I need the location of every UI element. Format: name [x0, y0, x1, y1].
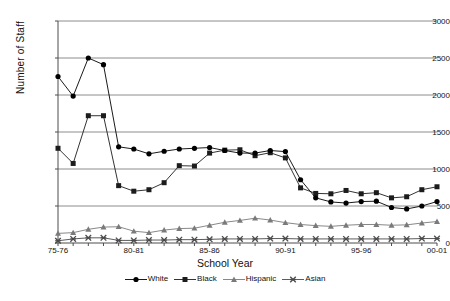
chart-legend: WhiteBlackHispanicAsian: [0, 274, 450, 284]
x-tick-label: 75-76: [48, 246, 68, 255]
y-axis-label: Number of Staff: [15, 0, 26, 133]
legend-marker-circle-icon: [125, 275, 147, 284]
x-tick-label: 80-81: [124, 246, 144, 255]
legend-item-hispanic[interactable]: Hispanic: [223, 274, 277, 283]
y-tick-label: 1500: [404, 128, 450, 137]
y-tick-label: 2500: [404, 54, 450, 63]
legend-item-white[interactable]: White: [125, 274, 168, 283]
legend-item-asian[interactable]: Asian: [282, 274, 325, 283]
x-axis-label: School Year: [0, 257, 450, 269]
series-black: [56, 113, 440, 200]
y-tick-label: 500: [404, 202, 450, 211]
legend-label: Asian: [305, 275, 325, 284]
legend-item-black[interactable]: Black: [174, 274, 217, 283]
x-tick-label: 90-91: [275, 246, 295, 255]
y-tick-label: 3000: [404, 17, 450, 26]
series-hispanic: [55, 215, 440, 236]
legend-label: Black: [197, 275, 217, 284]
legend-label: Hispanic: [246, 275, 277, 284]
y-tick-label: 1000: [404, 165, 450, 174]
figure-caption: [8, 291, 438, 300]
x-tick-label: 00-01: [427, 246, 447, 255]
series-asian: [55, 235, 440, 244]
y-tick-label: 2000: [404, 91, 450, 100]
x-tick-label: 95-96: [351, 246, 371, 255]
x-tick-label: 85-86: [199, 246, 219, 255]
legend-label: White: [148, 275, 168, 284]
legend-marker-cross-icon: [282, 275, 304, 284]
plot-area: [0, 0, 450, 301]
chart-figure: Number of Staff School Year 050010001500…: [0, 0, 450, 301]
series-white: [55, 55, 439, 211]
legend-marker-square-icon: [174, 275, 196, 284]
legend-marker-triangle-icon: [223, 275, 245, 284]
